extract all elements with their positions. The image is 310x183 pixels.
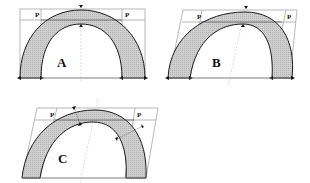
panel-b: P P B [165, 5, 297, 86]
panel-label-a: A [57, 55, 67, 70]
diagram-stage: P P A P P B [0, 0, 310, 183]
panel-a: P P A [17, 5, 148, 82]
point-label-b-left: P [197, 13, 202, 21]
panel-label-b: B [212, 55, 221, 70]
point-label-b-right: P [287, 13, 292, 21]
point-label-a-left: P [35, 11, 40, 19]
point-label-c-left: P [50, 111, 55, 119]
panel-label-c: C [58, 151, 67, 166]
panel-c: P P C [22, 98, 158, 183]
point-label-c-right: P [137, 111, 142, 119]
point-label-a-right: P [125, 11, 130, 19]
